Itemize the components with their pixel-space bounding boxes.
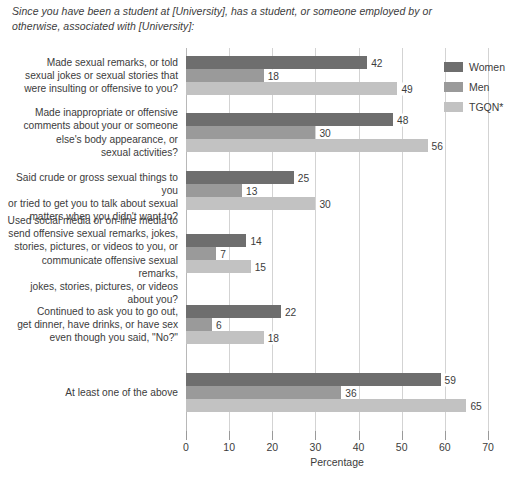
bar-value-label: 30 — [316, 197, 332, 210]
x-tick-label: 20 — [266, 441, 278, 453]
bar-men-5[interactable] — [186, 386, 341, 399]
category-label-line: communicate offensive sexual remarks, — [0, 254, 178, 280]
category-label-line: or tried to get you to talk about sexual — [0, 197, 178, 210]
category-label-line: comments about your or someone — [0, 119, 178, 132]
category-label-line: Continued to ask you to go out, — [0, 305, 178, 318]
category-label: Made inappropriate or offensivecomments … — [0, 106, 178, 159]
bar-row: 22 — [186, 305, 488, 318]
bar-row: 65 — [186, 399, 488, 412]
bar-tgqn-2[interactable] — [186, 197, 315, 210]
bar-group: 421849 — [186, 56, 488, 95]
bar-row: 7 — [186, 247, 488, 260]
bar-row: 42 — [186, 56, 488, 69]
chart-title: Since you have been a student at [Univer… — [12, 4, 436, 34]
bar-row: 59 — [186, 373, 488, 386]
bar-value-label: 42 — [368, 56, 384, 69]
bar-value-label: 18 — [265, 331, 281, 344]
bar-value-label: 48 — [394, 113, 410, 126]
x-axis: 010203040506070 — [186, 431, 488, 453]
category-label-column: Made sexual remarks, or toldsexual jokes… — [0, 48, 182, 431]
x-tick-60 — [445, 431, 446, 440]
category-label-line: were insulting or offensive to you? — [0, 82, 178, 95]
legend-swatch-icon — [444, 62, 463, 72]
bar-tgqn-0[interactable] — [186, 82, 397, 95]
bar-row: 36 — [186, 386, 488, 399]
bar-women-1[interactable] — [186, 113, 393, 126]
category-label-line: get dinner, have drinks, or have sex — [0, 318, 178, 331]
category-label: Used social media or on-line media tosen… — [0, 214, 178, 306]
x-tick-0 — [186, 431, 187, 440]
x-axis-title: Percentage — [186, 456, 488, 468]
bar-row: 18 — [186, 69, 488, 82]
bar-value-label: 7 — [217, 247, 228, 260]
bar-value-label: 15 — [252, 260, 268, 273]
bar-row: 56 — [186, 139, 488, 152]
bar-value-label: 13 — [243, 184, 259, 197]
x-tick-50 — [402, 431, 403, 440]
x-tick-20 — [272, 431, 273, 440]
category-label-line: jokes, stories, pictures, or videos — [0, 280, 178, 293]
bar-row: 18 — [186, 331, 488, 344]
bar-women-0[interactable] — [186, 56, 367, 69]
bar-row: 30 — [186, 126, 488, 139]
bar-value-label: 56 — [429, 139, 445, 152]
bar-women-2[interactable] — [186, 171, 294, 184]
x-tick-70 — [488, 431, 489, 440]
plot-area: 4218494830562513301471522618593665 — [186, 48, 488, 431]
bar-row: 14 — [186, 234, 488, 247]
bar-row: 25 — [186, 171, 488, 184]
bar-group: 14715 — [186, 234, 488, 273]
category-label: Continued to ask you to go out,get dinne… — [0, 305, 178, 345]
bar-tgqn-4[interactable] — [186, 331, 264, 344]
bar-men-3[interactable] — [186, 247, 216, 260]
category-label-line: sexual jokes or sexual stories that — [0, 69, 178, 82]
legend-swatch-icon — [444, 82, 463, 92]
category-label: Made sexual remarks, or toldsexual jokes… — [0, 56, 178, 96]
bar-tgqn-1[interactable] — [186, 139, 428, 152]
bar-row: 13 — [186, 184, 488, 197]
bar-row: 15 — [186, 260, 488, 273]
bar-women-4[interactable] — [186, 305, 281, 318]
bar-men-1[interactable] — [186, 126, 315, 139]
legend-label: TGQN* — [469, 101, 503, 113]
bar-women-5[interactable] — [186, 373, 441, 386]
bar-value-label: 59 — [442, 373, 458, 386]
x-tick-30 — [315, 431, 316, 440]
bar-row: 49 — [186, 82, 488, 95]
bar-group: 483056 — [186, 113, 488, 152]
category-label-line: send offensive sexual remarks, jokes, — [0, 227, 178, 240]
x-tick-label: 60 — [439, 441, 451, 453]
x-tick-label: 40 — [353, 441, 365, 453]
bar-value-label: 25 — [295, 171, 311, 184]
bar-women-3[interactable] — [186, 234, 246, 247]
bar-tgqn-5[interactable] — [186, 399, 466, 412]
category-label-line: Said crude or gross sexual things to you — [0, 171, 178, 197]
legend-label: Women — [469, 61, 505, 73]
bar-men-0[interactable] — [186, 69, 264, 82]
x-tick-40 — [359, 431, 360, 440]
bar-value-label: 49 — [398, 82, 414, 95]
bar-tgqn-3[interactable] — [186, 260, 251, 273]
bar-men-4[interactable] — [186, 318, 212, 331]
category-label-line: Made inappropriate or offensive — [0, 106, 178, 119]
category-label-line: else's body appearance, or — [0, 133, 178, 146]
bar-men-2[interactable] — [186, 184, 242, 197]
x-tick-label: 30 — [310, 441, 322, 453]
legend-label: Men — [469, 81, 489, 93]
x-tick-label: 10 — [223, 441, 235, 453]
bar-value-label: 30 — [316, 126, 332, 139]
category-label: At least one of the above — [0, 386, 178, 399]
bar-value-label: 22 — [282, 305, 298, 318]
bar-row: 6 — [186, 318, 488, 331]
category-label-line: Used social media or on-line media to — [0, 214, 178, 227]
x-tick-label: 50 — [396, 441, 408, 453]
bar-value-label: 14 — [247, 234, 263, 247]
category-label-line: Made sexual remarks, or told — [0, 56, 178, 69]
bar-value-label: 65 — [467, 399, 483, 412]
x-tick-label: 70 — [482, 441, 494, 453]
page-edge-bleed — [504, 36, 530, 166]
bar-value-label: 18 — [265, 69, 281, 82]
x-tick-10 — [229, 431, 230, 440]
bar-group: 251330 — [186, 171, 488, 210]
bar-row: 48 — [186, 113, 488, 126]
